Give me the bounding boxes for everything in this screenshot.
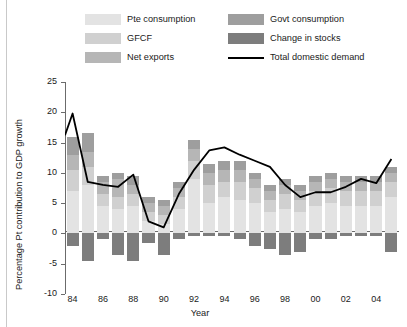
legend-label-change-in-stocks: Change in stocks bbox=[270, 33, 340, 44]
legend-swatch-gfcf-icon bbox=[85, 33, 121, 44]
x-tick-label-00: 00 bbox=[305, 295, 327, 304]
legend-item-total-domestic-demand: Total domestic demand bbox=[228, 52, 364, 63]
legend-item-change-in-stocks: Change in stocks bbox=[228, 33, 340, 44]
x-axis-label: Year bbox=[180, 308, 220, 318]
x-tick-label-98: 98 bbox=[274, 295, 296, 304]
x-tick-label-86: 86 bbox=[92, 295, 114, 304]
y-tick-label--10: -10 bbox=[31, 289, 57, 298]
legend-item-pte-consumption: Pte consumption bbox=[85, 14, 195, 25]
x-tick-label-88: 88 bbox=[122, 295, 144, 304]
y-tick-label-25: 25 bbox=[31, 77, 57, 86]
legend-swatch-pte-consumption-icon bbox=[85, 14, 121, 25]
x-tick-label-94: 94 bbox=[213, 295, 235, 304]
legend-label-total-domestic-demand: Total domestic demand bbox=[270, 52, 364, 63]
legend-label-pte-consumption: Pte consumption bbox=[127, 14, 195, 25]
legend-swatch-change-in-stocks-icon bbox=[228, 33, 264, 44]
x-tick-label-84: 84 bbox=[62, 295, 84, 304]
x-tick-label-96: 96 bbox=[244, 295, 266, 304]
legend-item-gfcf: GFCF bbox=[85, 33, 152, 44]
x-tick-label-92: 92 bbox=[183, 295, 205, 304]
y-tick-label--5: -5 bbox=[31, 259, 57, 268]
legend-line-total-domestic-demand-icon bbox=[228, 57, 264, 59]
plot-area bbox=[65, 82, 399, 294]
legend-item-net-exports: Net exports bbox=[85, 52, 174, 63]
legend-label-gfcf: GFCF bbox=[127, 33, 152, 44]
y-tick-label-0: 0 bbox=[31, 228, 57, 237]
legend-label-govt-consumption: Govt consumption bbox=[270, 14, 344, 25]
x-tick-label-90: 90 bbox=[153, 295, 175, 304]
legend-swatch-govt-consumption-icon bbox=[228, 14, 264, 25]
x-tick-label-04: 04 bbox=[365, 295, 387, 304]
x-tick-label-02: 02 bbox=[335, 295, 357, 304]
total-domestic-demand-line bbox=[65, 82, 399, 294]
y-tick-label-15: 15 bbox=[31, 138, 57, 147]
y-tick-label-20: 20 bbox=[31, 107, 57, 116]
legend-swatch-net-exports-icon bbox=[85, 52, 121, 63]
chart-legend: Pte consumption GFCF Net exports Govt co… bbox=[0, 0, 407, 72]
y-axis-label: Percentage Pt contribution to GDP growth bbox=[14, 119, 24, 290]
y-tick-label-10: 10 bbox=[31, 168, 57, 177]
legend-item-govt-consumption: Govt consumption bbox=[228, 14, 344, 25]
chart-figure: Pte consumption GFCF Net exports Govt co… bbox=[0, 0, 407, 327]
y-tick-label-5: 5 bbox=[31, 198, 57, 207]
legend-label-net-exports: Net exports bbox=[127, 52, 174, 63]
